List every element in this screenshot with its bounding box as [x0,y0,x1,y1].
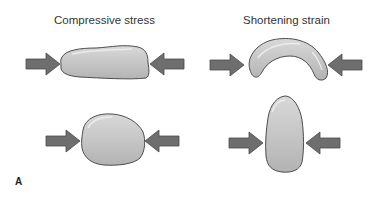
rounded-block-shape [82,114,145,165]
arrow-left-icon [306,132,340,154]
elongated-oval-shape [266,96,304,172]
shortening-strain-top-example [210,39,362,81]
arrow-right-icon [26,53,60,75]
arrow-left-icon [145,130,179,152]
compressive-stress-top-example [26,46,184,79]
arrow-left-icon [328,54,362,76]
shortening-strain-bottom-example [229,96,340,172]
bent-arch-shape [249,39,327,81]
compressive-stress-bottom-example [46,114,179,165]
arrow-right-icon [46,130,80,152]
arrow-right-icon [229,132,263,154]
diagram-canvas [0,0,383,211]
arrow-left-icon [150,53,184,75]
arrow-right-icon [210,54,244,76]
